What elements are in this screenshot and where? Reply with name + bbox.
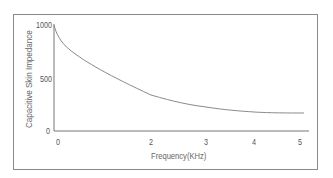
x-tick-3: 3 (204, 137, 208, 147)
x-tick-0: 0 (56, 137, 60, 147)
y-tick-1000: 1000 (36, 20, 52, 30)
y-tick-500: 500 (40, 74, 52, 84)
x-tick-4: 4 (252, 137, 256, 147)
x-tick-5: 5 (298, 137, 302, 147)
x-axis-label: Frequency(KHz) (151, 150, 206, 161)
y-axis-label: Capacitive Skin Impedance (23, 30, 34, 128)
y-tick-0: 0 (46, 126, 50, 136)
x-tick-2: 2 (149, 137, 153, 147)
impedance-curve (54, 25, 304, 113)
